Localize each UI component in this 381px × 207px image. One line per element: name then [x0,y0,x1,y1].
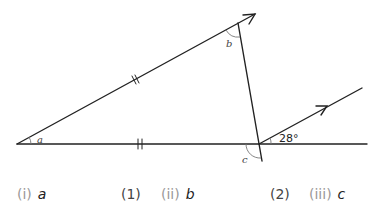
question-3: (iii)c [309,186,345,202]
question-number: (ii) [161,186,180,202]
angle-label-a: a [37,134,43,145]
angle-arc-b [226,30,240,37]
angle-arc-given [270,138,271,144]
geometry-diagram: a b c 28° [0,0,381,207]
question-2: (ii)b [161,186,195,202]
line-bc [238,23,262,161]
question-number: (iii) [309,186,332,202]
angle-label-given: 28° [279,132,299,145]
angle-label-b: b [226,38,232,49]
question-1: (i)a [17,186,46,202]
question-2-marks: (2) [270,186,290,202]
angle-arc-a [29,137,31,144]
questions-row: (i)a (1) (ii)b (2) (iii)c [0,186,381,206]
question-variable: c [338,186,346,202]
question-number: (i) [17,186,32,202]
line-parallel [259,88,362,144]
question-1-marks: (1) [121,186,141,202]
question-variable: a [38,186,47,202]
question-variable: b [186,186,195,202]
line-ab [17,14,255,144]
angle-label-c: c [242,154,248,165]
